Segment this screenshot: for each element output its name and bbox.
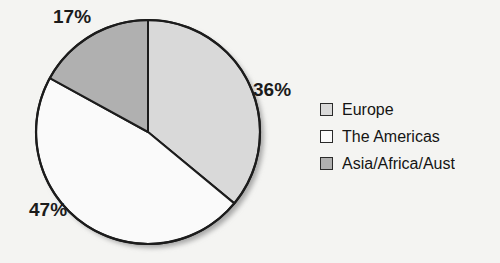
pie-chart-figure: 17% 36% 47% Europe The Americas Asia/Afr… [0, 0, 500, 263]
data-label-the-americas: 47% [29, 199, 67, 221]
legend-item-asia-africa-aust[interactable]: Asia/Africa/Aust [320, 150, 496, 177]
legend-item-the-americas[interactable]: The Americas [320, 123, 496, 150]
legend-label-the-americas: The Americas [342, 129, 440, 145]
pie-plot-area: 17% 36% 47% [0, 0, 310, 263]
data-label-europe: 36% [253, 79, 291, 101]
pie-svg [0, 0, 310, 263]
legend-label-asia-africa-aust: Asia/Africa/Aust [342, 156, 455, 172]
legend-item-europe[interactable]: Europe [320, 96, 496, 123]
legend-swatch-the-americas [320, 130, 333, 143]
data-label-asia-africa-aust: 17% [53, 6, 91, 28]
legend-swatch-asia-africa-aust [320, 157, 333, 170]
legend-label-europe: Europe [342, 102, 394, 118]
chart-legend: Europe The Americas Asia/Africa/Aust [320, 96, 496, 177]
legend-swatch-europe [320, 103, 333, 116]
